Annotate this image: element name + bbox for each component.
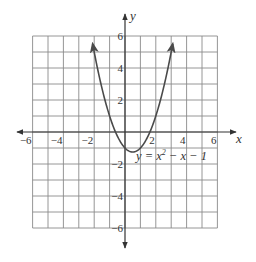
y-tick-label: 4 bbox=[118, 62, 124, 74]
y-tick-label: −6 bbox=[111, 222, 123, 234]
y-tick-label: −4 bbox=[111, 190, 123, 202]
y-axis-label: y bbox=[128, 8, 136, 23]
x-tick-label: −2 bbox=[81, 134, 93, 146]
x-tick-label: −4 bbox=[51, 134, 63, 146]
x-tick-label: 6 bbox=[211, 134, 217, 146]
parabola-curve bbox=[93, 44, 173, 152]
y-tick-label: −2 bbox=[111, 158, 123, 170]
equation-rhs: − x − 1 bbox=[166, 149, 207, 163]
equation-label: y = x2 − x − 1 bbox=[134, 148, 207, 163]
x-tick-label: 2 bbox=[149, 134, 155, 146]
x-axis-label: x bbox=[235, 131, 242, 146]
equation-lhs: y = x bbox=[134, 149, 162, 163]
axes bbox=[17, 14, 236, 248]
x-tick-label: 4 bbox=[180, 134, 186, 146]
y-tick-label: 2 bbox=[118, 94, 124, 106]
x-tick-label: −6 bbox=[20, 134, 32, 146]
parabola-path bbox=[93, 44, 173, 152]
parabola-graph: −6−4−2246642−2−4−6 x y y = x2 − x − 1 bbox=[0, 0, 256, 262]
y-tick-label: 6 bbox=[118, 30, 124, 42]
